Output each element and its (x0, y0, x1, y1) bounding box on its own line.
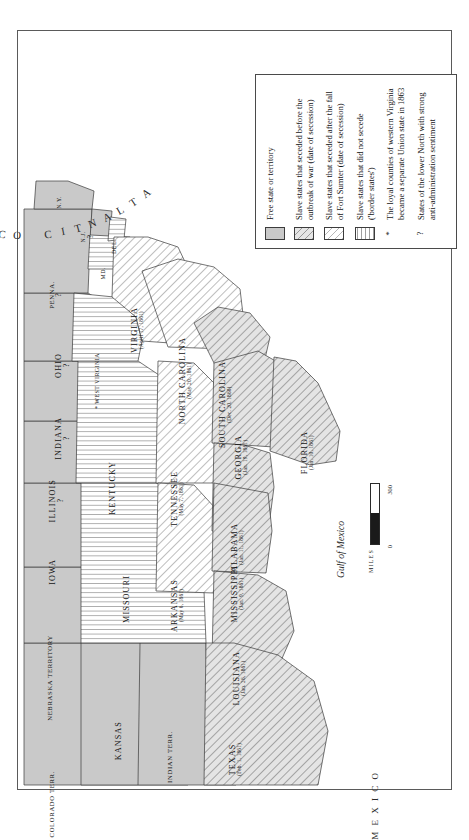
legend-swatch-seceded-after-sumter (324, 227, 344, 240)
scale-bar-track (370, 483, 380, 545)
legend-swatch-free-state (265, 227, 285, 240)
legend-label-seceded-before-war: Slave states that seceded before the out… (294, 85, 316, 220)
legend-marker-asterisk: * (385, 227, 395, 240)
legend-swatch-border-states (355, 227, 375, 240)
scale-bar-max-label: 300 (386, 485, 393, 495)
scale-bar: 300 0 MILES (370, 483, 384, 563)
legend-swatch-seceded-before-war (294, 227, 314, 240)
legend-label-free-state: Free state or territory (265, 147, 276, 220)
scale-bar-fill (371, 513, 379, 544)
scale-bar-zero-label: 0 (386, 545, 393, 548)
legend-label-seceded-after-sumter: Slave states that seceded after the fall… (324, 85, 346, 220)
legend-note-text-lower-north: States of the lower North with strong an… (416, 85, 438, 220)
legend-marker-question: ? (416, 227, 426, 240)
map-frame: ATLANTIC OCEAN N.Y. N.J. ? PENNA. ? DEL.… (17, 30, 452, 790)
legend-item-free-state: Free state or territory (265, 85, 285, 240)
legend-item-seceded-after-sumter: Slave states that seceded after the fall… (324, 85, 346, 240)
legend-note-text-west-virginia: The loyal counties of western Virginia b… (385, 85, 407, 220)
legend-label-border-states: Slave states that did not secede ('borde… (355, 85, 377, 220)
legend-note-lower-north: ? States of the lower North with strong … (416, 85, 438, 240)
legend-box: Free state or territory Slave states tha… (255, 74, 457, 249)
legend-item-border-states: Slave states that did not secede ('borde… (355, 85, 377, 240)
legend-item-seceded-before-war: Slave states that seceded before the out… (294, 85, 316, 240)
scale-bar-units-label: MILES (368, 549, 374, 573)
legend-note-west-virginia: * The loyal counties of western Virginia… (385, 85, 407, 240)
